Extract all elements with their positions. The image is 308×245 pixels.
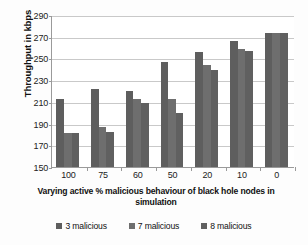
chart-legend: 3 malicious7 malicious8 malicious: [0, 221, 308, 231]
x-axis-tick-label: 100: [51, 170, 86, 180]
bar: [265, 33, 273, 167]
bar-group: [161, 16, 184, 167]
bar-chart: Throughput in kbps 150170190210230250270…: [0, 0, 308, 245]
bar: [141, 103, 149, 167]
bar: [280, 33, 288, 167]
x-axis-tick-label: 75: [86, 170, 121, 180]
bar: [64, 133, 72, 167]
y-axis-tick-label: 210: [22, 98, 48, 108]
x-axis-tick-label: 10: [225, 170, 260, 180]
bar: [230, 41, 238, 167]
bar: [245, 51, 253, 167]
legend-label: 8 malicious: [210, 221, 251, 231]
x-axis-tick-label: 0: [259, 170, 294, 180]
bar-group: [91, 16, 114, 167]
legend-item[interactable]: 3 malicious: [56, 221, 106, 231]
bar: [56, 99, 64, 167]
bar: [176, 113, 184, 167]
legend-item[interactable]: 8 malicious: [201, 221, 251, 231]
bar-group: [126, 16, 149, 167]
legend-label: 3 malicious: [65, 221, 106, 231]
legend-swatch-icon: [201, 223, 207, 229]
plot-area: [51, 16, 294, 168]
bar: [126, 91, 134, 167]
bar: [91, 89, 99, 167]
legend-item[interactable]: 7 malicious: [129, 221, 179, 231]
bar: [238, 49, 246, 167]
bar: [168, 99, 176, 167]
bar: [133, 99, 141, 167]
y-axis-tick-mark: [49, 168, 52, 169]
bar: [72, 133, 80, 167]
bar: [272, 33, 280, 167]
y-axis-tick-label: 150: [22, 163, 48, 173]
legend-swatch-icon: [129, 223, 135, 229]
bar-group: [195, 16, 218, 167]
y-axis-tick-label: 170: [22, 141, 48, 151]
bar-group: [56, 16, 79, 167]
x-axis-tick-label: 60: [120, 170, 155, 180]
x-axis-tick-label: 50: [155, 170, 190, 180]
x-axis-title: Varying active % malicious behaviour of …: [20, 186, 292, 208]
y-axis-tick-label: 250: [22, 54, 48, 64]
legend-swatch-icon: [56, 223, 62, 229]
bar-group: [230, 16, 253, 167]
bar: [211, 70, 219, 167]
y-axis-tick-label: 270: [22, 33, 48, 43]
x-axis-tick-labels: 10075605020100: [51, 170, 294, 184]
y-axis-tick-label: 230: [22, 76, 48, 86]
bars-layer: [52, 16, 294, 167]
bar: [106, 132, 114, 167]
bar: [203, 65, 211, 167]
bar: [99, 127, 107, 167]
bar-group: [265, 16, 288, 167]
y-axis-tick-label: 290: [22, 11, 48, 21]
x-axis-tick-mark: [295, 167, 296, 171]
y-axis-tick-labels: 150170190210230250270290: [22, 16, 48, 168]
x-axis-tick-label: 20: [190, 170, 225, 180]
y-axis-tick-label: 190: [22, 120, 48, 130]
bar: [195, 52, 203, 167]
legend-label: 7 malicious: [138, 221, 179, 231]
bar: [161, 62, 169, 167]
